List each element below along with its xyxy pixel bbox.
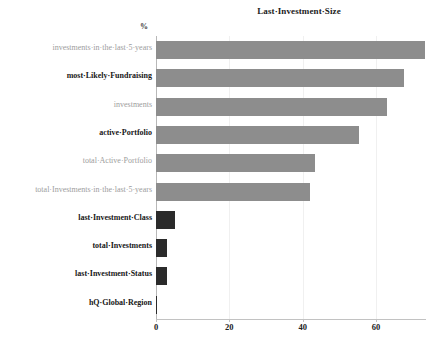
bar-row: most·Likely·Fundraising bbox=[156, 64, 442, 92]
y-axis-tick-label: most·Likely·Fundraising bbox=[67, 71, 152, 81]
bar-row: total·Investments·in·the·last·5·years bbox=[156, 178, 442, 206]
bar bbox=[156, 41, 425, 59]
bar-row: investments·in·the·last·5·years bbox=[156, 36, 442, 64]
y-axis-tick-label: active·Portfolio bbox=[99, 128, 152, 138]
bar-row: total·Investments bbox=[156, 234, 442, 262]
y-axis-unit-label: % bbox=[140, 22, 148, 32]
y-axis-tick-label: total·Investments bbox=[92, 241, 152, 251]
bar bbox=[156, 98, 387, 116]
bar bbox=[156, 239, 167, 257]
bar-row: total·Active·Portfolio bbox=[156, 149, 442, 177]
x-axis-line bbox=[156, 319, 426, 320]
bar bbox=[156, 183, 310, 201]
bar-row: last·Investment·Status bbox=[156, 262, 442, 290]
bar bbox=[156, 154, 315, 172]
y-axis-tick-label: hQ·Global·Region bbox=[89, 298, 152, 308]
bar bbox=[156, 296, 157, 314]
bar-row: hQ·Global·Region bbox=[156, 291, 442, 319]
y-axis-tick-label: last·Investment·Class bbox=[78, 213, 152, 223]
bar-row: investments bbox=[156, 93, 442, 121]
y-axis-tick-label: last·Investment·Status bbox=[75, 269, 152, 279]
x-axis-tick-label: 60 bbox=[372, 322, 381, 333]
bar-row: last·Investment·Class bbox=[156, 206, 442, 234]
y-axis-tick-label: investments·in·the·last·5·years bbox=[52, 43, 152, 53]
y-axis-tick-label: total·Investments·in·the·last·5·years bbox=[35, 185, 152, 195]
bar bbox=[156, 69, 404, 87]
bar bbox=[156, 126, 359, 144]
plot-area: investments·in·the·last·5·yearsmost·Like… bbox=[156, 36, 442, 319]
x-axis-tick-label: 20 bbox=[225, 322, 234, 333]
bar-row: active·Portfolio bbox=[156, 121, 442, 149]
y-axis-tick-label: investments bbox=[114, 100, 152, 110]
chart-title: Last·Investment·Size bbox=[156, 6, 442, 17]
x-axis-tick-label: 40 bbox=[298, 322, 307, 333]
y-axis-tick-label: total·Active·Portfolio bbox=[83, 156, 152, 166]
bar bbox=[156, 211, 175, 229]
bar-chart: Last·Investment·Size % investments·in·th… bbox=[0, 0, 442, 347]
x-axis-tick-label: 0 bbox=[154, 322, 158, 333]
bar bbox=[156, 267, 167, 285]
